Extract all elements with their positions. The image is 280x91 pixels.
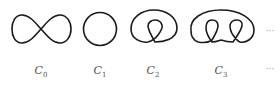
label-c0-sub: 0 [43, 71, 47, 79]
curve-c0-figure-eight [12, 15, 71, 43]
label-c2: C2 [147, 64, 160, 79]
label-c2-sub: 2 [155, 71, 159, 79]
curve-c3-double-curl [191, 10, 254, 43]
ellipsis-bottom: ··· [266, 64, 275, 74]
label-c1: C1 [94, 64, 107, 79]
label-c3: C3 [215, 64, 228, 79]
ellipsis-top: ··· [266, 26, 275, 36]
label-c1-sub: 1 [102, 71, 106, 79]
curve-c2-single-curl [131, 10, 177, 42]
label-c0: C0 [35, 64, 48, 79]
label-c3-sub: 3 [223, 71, 227, 79]
curve-c1-circle [84, 13, 117, 46]
